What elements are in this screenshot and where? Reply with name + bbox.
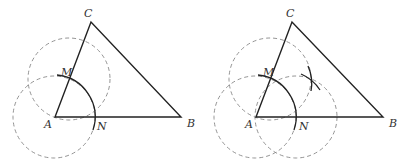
label-m: M [60, 66, 73, 79]
label-n: N [298, 120, 309, 133]
triangle-abc [55, 22, 181, 117]
label-b: B [186, 117, 195, 130]
label-a: A [43, 118, 52, 131]
geometry-diagram: C A B M N C A B M N [0, 0, 406, 168]
arc-mn [258, 75, 296, 130]
label-n: N [96, 120, 107, 133]
label-a: A [244, 118, 253, 131]
triangle-abc [256, 22, 383, 117]
left-figure: C A B M N [13, 7, 195, 158]
label-b: B [388, 117, 397, 130]
label-m: M [262, 66, 275, 79]
arc-mn [57, 75, 95, 130]
label-c: C [84, 7, 93, 20]
label-c: C [286, 7, 295, 20]
right-figure: C A B M N [214, 7, 397, 158]
